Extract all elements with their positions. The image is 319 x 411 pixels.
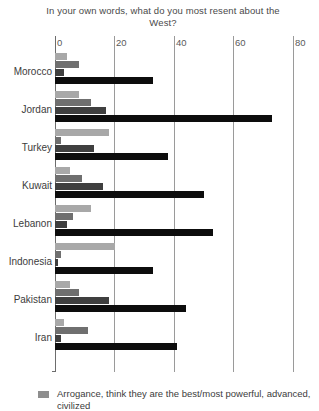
bar-iran-series-4 [55, 343, 177, 350]
bar-kuwait-series-3 [55, 183, 103, 190]
bar-lebanon-series-3 [55, 221, 67, 228]
bar-morocco-series-3 [55, 69, 64, 76]
bar-kuwait-series-1 [55, 167, 70, 174]
bar-indonesia-series-1 [55, 243, 115, 250]
bar-iran-series-3 [55, 335, 61, 342]
xtick-label-20: 20 [116, 37, 127, 48]
gridline-20 [114, 36, 115, 372]
bar-pakistan-series-4 [55, 305, 186, 312]
bar-kuwait-series-2 [55, 175, 82, 182]
gridline-80 [293, 36, 294, 372]
bar-pakistan-series-1 [55, 281, 70, 288]
bar-iran-series-1 [55, 319, 64, 326]
gridline-40 [174, 36, 175, 372]
bar-morocco-series-4 [55, 77, 153, 84]
bar-turkey-series-4 [55, 153, 168, 160]
xtick-label-60: 60 [235, 37, 246, 48]
xtick-label-80: 80 [295, 37, 306, 48]
bar-pakistan-series-2 [55, 289, 79, 296]
bar-morocco-series-2 [55, 61, 79, 68]
bar-morocco-series-1 [55, 53, 67, 60]
category-label-morocco: Morocco [0, 66, 52, 77]
category-label-jordan: Jordan [0, 104, 52, 115]
bar-indonesia-series-4 [55, 267, 153, 274]
legend-label: Arrogance, think they are the best/most … [57, 388, 319, 411]
category-label-kuwait: Kuwait [0, 180, 52, 191]
xtick-label-0: 0 [57, 37, 62, 48]
category-label-indonesia: Indonesia [0, 256, 52, 267]
bar-jordan-series-1 [55, 91, 79, 98]
bar-indonesia-series-2 [55, 251, 61, 258]
bar-iran-series-2 [55, 327, 88, 334]
gridline-60 [233, 36, 234, 372]
bar-lebanon-series-1 [55, 205, 91, 212]
axis-baseline-tick [52, 371, 56, 372]
bar-jordan-series-3 [55, 107, 106, 114]
bar-turkey-series-1 [55, 129, 109, 136]
category-label-pakistan: Pakistan [0, 294, 52, 305]
bar-lebanon-series-2 [55, 213, 73, 220]
category-label-iran: Iran [0, 332, 52, 343]
category-label-lebanon: Lebanon [0, 218, 52, 229]
bar-indonesia-series-3 [55, 259, 58, 266]
bar-turkey-series-3 [55, 145, 94, 152]
bar-kuwait-series-4 [55, 191, 204, 198]
category-label-turkey: Turkey [0, 142, 52, 153]
xtick-label-40: 40 [176, 37, 187, 48]
bar-pakistan-series-3 [55, 297, 109, 304]
bar-turkey-series-2 [55, 137, 61, 144]
bar-jordan-series-2 [55, 99, 91, 106]
bar-lebanon-series-4 [55, 229, 213, 236]
bar-jordan-series-4 [55, 115, 272, 122]
legend-swatch-icon [38, 391, 49, 398]
